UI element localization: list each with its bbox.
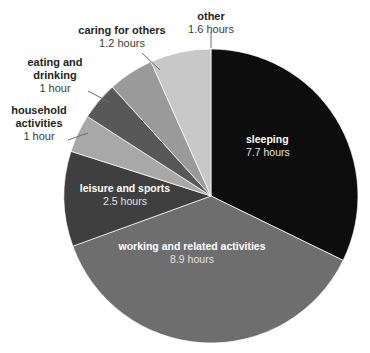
- slice-label-other-name: other: [160, 10, 262, 23]
- slice-label-sleeping-hours: 7.7 hours: [246, 146, 356, 159]
- pie-chart: other 1.6 hours caring for others 1.2 ho…: [0, 0, 370, 353]
- slice-label-caring-for-others-hours: 1.2 hours: [62, 37, 182, 50]
- slice-label-household-activities: household activities 1 hour: [0, 104, 78, 143]
- slice-label-eating-and-drinking: eating and drinking 1 hour: [12, 56, 98, 95]
- pie-chart-svg: [0, 0, 370, 353]
- slice-label-caring-for-others-name: caring for others: [62, 24, 182, 37]
- slice-label-eating-and-drinking-hours: 1 hour: [12, 82, 98, 95]
- slice-label-working-and-related-activities-hours: 8.9 hours: [110, 253, 274, 266]
- slice-label-leisure-and-sports-hours: 2.5 hours: [62, 195, 188, 208]
- slice-label-eating-and-drinking-name: eating and drinking: [12, 56, 98, 82]
- slice-label-leisure-and-sports-name: leisure and sports: [62, 182, 188, 195]
- slice-label-sleeping: sleeping 7.7 hours: [246, 133, 356, 158]
- slice-label-working-and-related-activities: working and related activities 8.9 hours: [110, 240, 274, 265]
- slice-label-household-activities-name: household activities: [0, 104, 78, 130]
- slice-label-leisure-and-sports: leisure and sports 2.5 hours: [62, 182, 188, 207]
- slice-label-caring-for-others: caring for others 1.2 hours: [62, 24, 182, 50]
- slice-label-working-and-related-activities-name: working and related activities: [110, 240, 274, 253]
- slice-label-sleeping-name: sleeping: [246, 133, 356, 146]
- slice-label-household-activities-hours: 1 hour: [0, 130, 78, 143]
